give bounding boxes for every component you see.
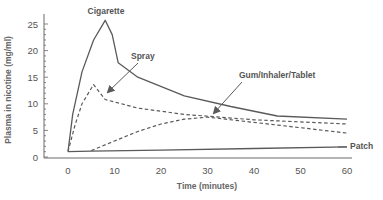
y-tick-label: 15 <box>27 72 38 83</box>
y-tick-label: 0 <box>33 152 38 163</box>
series-patch <box>68 147 347 152</box>
arrow-spray <box>108 63 138 92</box>
y-ticks: 0510152025 <box>27 19 48 163</box>
y-tick-label: 10 <box>27 98 38 109</box>
x-tick-label: 30 <box>202 165 213 176</box>
y-axis-title: Plasma in nicotine (mg/ml) <box>3 36 13 144</box>
x-axis-title: Time (minutes) <box>177 181 237 191</box>
y-tick-label: 20 <box>27 45 38 56</box>
x-tick-label: 60 <box>342 165 353 176</box>
series-spray <box>68 85 347 152</box>
y-tick-label: 25 <box>27 19 38 30</box>
x-tick-label: 50 <box>295 165 306 176</box>
x-tick-label: 10 <box>109 165 120 176</box>
annotation-spray: Spray <box>131 51 155 61</box>
nicotine-plasma-chart: 0510152025 0102030405060 Time (minutes) … <box>0 0 383 200</box>
x-ticks: 0102030405060 <box>65 165 352 176</box>
series-group <box>68 20 347 151</box>
annotation-patch: Patch <box>350 141 373 151</box>
series-cigarette <box>68 20 347 151</box>
annotation-cigarette: Cigarette <box>88 6 125 16</box>
x-tick-label: 20 <box>156 165 167 176</box>
annotation-gum: Gum/Inhaler/Tablet <box>239 70 316 80</box>
x-tick-label: 0 <box>65 165 70 176</box>
x-tick-label: 40 <box>249 165 260 176</box>
y-tick-label: 5 <box>33 125 38 136</box>
